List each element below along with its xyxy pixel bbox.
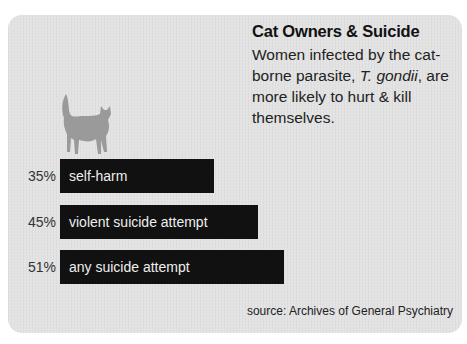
bar-value-label: 51% <box>16 250 56 284</box>
cat-silhouette-icon <box>58 92 114 158</box>
bar-any-suicide-attempt: any suicide attempt <box>60 250 284 284</box>
chart-title: Cat Owners & Suicide <box>252 22 419 41</box>
bar-self-harm: self-harm <box>60 159 214 193</box>
bar-violent-suicide-attempt: violent suicide attempt <box>60 205 258 239</box>
source-note: source: Archives of General Psychiatry <box>247 304 453 318</box>
chart-subtitle: Women infected by the cat-borne parasite… <box>252 44 462 128</box>
subtitle-italic: T. gondii <box>360 67 418 84</box>
bar-value-label: 35% <box>16 159 56 193</box>
bar-value-label: 45% <box>16 205 56 239</box>
